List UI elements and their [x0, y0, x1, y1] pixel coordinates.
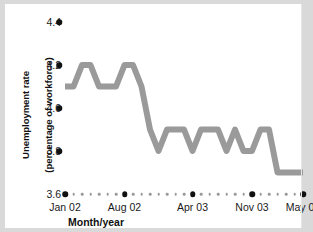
x-major-tick-dot — [249, 191, 255, 197]
x-minor-tick-dot — [98, 193, 101, 196]
x-minor-tick-dot — [200, 193, 203, 196]
y-tick-dot — [56, 19, 62, 25]
x-minor-tick-dot — [268, 193, 271, 196]
x-minor-tick-dot — [225, 193, 228, 196]
x-minor-tick-dot — [259, 193, 262, 196]
y-tick-dot — [56, 148, 62, 154]
x-minor-tick-dot — [242, 193, 245, 196]
x-axis-label: Month/year — [68, 216, 124, 228]
x-minor-tick-dot — [140, 193, 143, 196]
x-minor-tick-dot — [81, 193, 84, 196]
x-tick-label: May 04 — [286, 201, 313, 213]
x-tick-label: Jan 02 — [49, 201, 81, 213]
plot-area: 3.63.84.04.24.4 Jan 02Aug 02Apr 03Nov 03… — [65, 22, 303, 194]
x-minor-tick-dot — [149, 193, 152, 196]
x-tick-label: Nov 03 — [235, 201, 268, 213]
x-minor-tick-dot — [276, 193, 279, 196]
x-minor-tick-dot — [166, 193, 169, 196]
chart-panel: Unemployment rate (percentage of workfor… — [5, 4, 302, 228]
x-major-tick-dot — [300, 191, 306, 197]
line-series — [65, 22, 303, 194]
x-major-tick-dot — [122, 191, 128, 197]
y-tick-dot — [56, 62, 62, 68]
x-minor-tick-dot — [285, 193, 288, 196]
x-minor-tick-dot — [132, 193, 135, 196]
x-minor-tick-dot — [72, 193, 75, 196]
y-axis-label-line1: Unemployment rate — [20, 40, 32, 190]
x-minor-tick-dot — [183, 193, 186, 196]
y-axis-label: Unemployment rate (percentage of workfor… — [8, 0, 32, 40]
x-minor-tick-dot — [157, 193, 160, 196]
x-minor-tick-dot — [208, 193, 211, 196]
y-tick-dot — [56, 105, 62, 111]
chart-figure: Unemployment rate (percentage of workfor… — [0, 0, 313, 232]
x-minor-tick-dot — [217, 193, 220, 196]
x-minor-tick-dot — [89, 193, 92, 196]
x-minor-tick-dot — [115, 193, 118, 196]
x-minor-tick-dot — [293, 193, 296, 196]
x-minor-tick-dot — [174, 193, 177, 196]
x-tick-label: Apr 03 — [177, 201, 208, 213]
x-minor-tick-dot — [106, 193, 109, 196]
x-major-tick-dot — [190, 191, 196, 197]
x-minor-tick-dot — [234, 193, 237, 196]
x-tick-label: Aug 02 — [108, 201, 141, 213]
x-major-tick-dot — [62, 191, 68, 197]
